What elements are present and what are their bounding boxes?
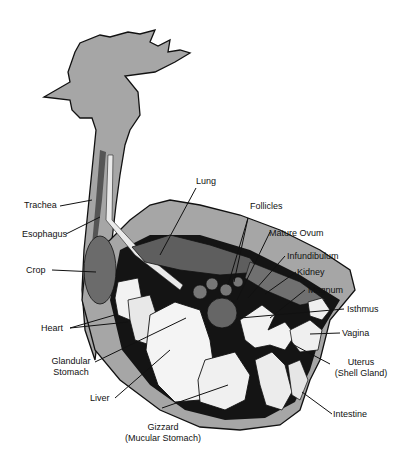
label-mature-ovum: Mature Ovum	[269, 228, 324, 239]
label-esophagus: Esophagus	[22, 229, 67, 240]
label-follicles: Follicles	[250, 201, 283, 212]
follicle	[206, 278, 218, 290]
label-magnum: Magnum	[308, 285, 343, 296]
label-trachea: Trachea	[24, 200, 57, 211]
label-intestine: Intestine	[333, 409, 367, 420]
label-glandular-stomach-line2: Stomach	[50, 367, 92, 378]
label-glandular-stomach: Glandular Stomach	[50, 356, 92, 378]
label-isthmus: Isthmus	[347, 304, 379, 315]
label-uterus-line2: (Shell Gland)	[330, 368, 392, 379]
label-uterus: Uterus (Shell Gland)	[330, 357, 392, 379]
label-gizzard-line2: (Mucular Stomach)	[118, 433, 208, 444]
label-crop: Crop	[26, 265, 46, 276]
label-uterus-line1: Uterus	[330, 357, 392, 368]
label-kidney: Kidney	[297, 267, 325, 278]
crop-organ	[84, 236, 116, 304]
label-liver: Liver	[90, 393, 110, 404]
label-gizzard: Gizzard (Mucular Stomach)	[118, 422, 208, 444]
label-glandular-stomach-line1: Glandular	[50, 356, 92, 367]
follicle	[220, 284, 232, 296]
label-heart: Heart	[41, 323, 63, 334]
follicle	[193, 285, 207, 299]
label-infundibulum: Infundibulum	[287, 251, 339, 262]
label-lung: Lung	[196, 176, 216, 187]
mature-ovum-organ	[207, 298, 237, 328]
label-gizzard-line1: Gizzard	[118, 422, 208, 433]
label-vagina: Vagina	[342, 328, 369, 339]
